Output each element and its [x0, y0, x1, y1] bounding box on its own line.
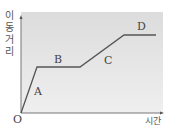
y-label-char: 이	[2, 10, 16, 22]
y-label-char: 리	[2, 46, 16, 58]
segment-label-a: A	[34, 85, 42, 98]
x-axis-label: 시간	[145, 114, 161, 127]
segment-label-c: C	[104, 54, 112, 67]
y-axis-label: 이 동 거 리	[2, 10, 16, 58]
segment-label-b: B	[54, 53, 62, 66]
y-label-char: 동	[2, 22, 16, 34]
distance-time-chart: 이 동 거 리 시간 O A B C D	[0, 0, 171, 134]
segment-label-d: D	[137, 20, 146, 33]
y-label-char: 거	[2, 34, 16, 46]
origin-label: O	[13, 113, 22, 126]
